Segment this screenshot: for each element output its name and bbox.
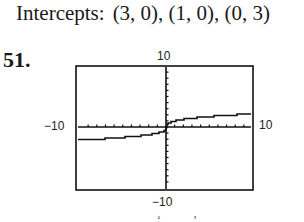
cut-off-text-fragment: ‘: [157, 213, 161, 222]
graph-window: [0, 0, 304, 222]
graph-frame: [76, 66, 253, 190]
cut-off-text-fragment: ’: [193, 213, 197, 222]
